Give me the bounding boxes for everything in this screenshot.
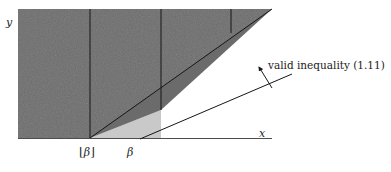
y-axis-label: y [6, 17, 12, 28]
valid-inequality-annotation-label: valid inequality (1.11) [268, 60, 385, 71]
floor-bracket-close-icon: ⌋ [90, 145, 95, 159]
diagram-canvas [0, 0, 391, 172]
figure-container: y x ⌊β⌋ β valid inequality (1.11) [0, 0, 391, 172]
beta-symbol-plain: β [127, 146, 133, 159]
x-axis-label: x [259, 128, 265, 139]
tick-label-floor-beta: ⌊β⌋ [79, 146, 95, 158]
tick-label-beta: β [127, 147, 133, 158]
